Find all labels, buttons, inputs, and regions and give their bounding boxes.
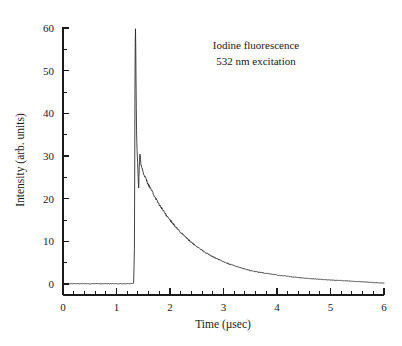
annotation-line-2: 532 nm excitation bbox=[216, 55, 296, 67]
x-axis-title: Time (µsec) bbox=[195, 318, 251, 331]
y-axis-title: Intensity (arb. units) bbox=[14, 113, 27, 207]
y-tick-label: 40 bbox=[43, 107, 55, 119]
y-tick-label: 30 bbox=[43, 150, 55, 162]
x-tick-label: 2 bbox=[167, 301, 173, 313]
x-tick-label: 4 bbox=[274, 301, 280, 313]
annotation-line-1: Iodine fluorescence bbox=[213, 39, 300, 51]
x-tick-label: 1 bbox=[114, 301, 120, 313]
y-tick-label: 0 bbox=[49, 278, 55, 290]
fluorescence-decay-curve bbox=[63, 29, 384, 284]
y-tick-label: 20 bbox=[43, 193, 55, 205]
x-tick-label: 6 bbox=[381, 301, 387, 313]
x-tick-label: 5 bbox=[328, 301, 334, 313]
y-tick-labels: 0102030405060 bbox=[43, 22, 55, 290]
iodine-fluorescence-chart: 0123456 0102030405060 Time (µsec) Intens… bbox=[0, 0, 402, 346]
x-tick-label: 0 bbox=[60, 301, 66, 313]
x-tick-labels: 0123456 bbox=[60, 301, 387, 313]
x-tick-label: 3 bbox=[221, 301, 227, 313]
y-tick-label: 60 bbox=[43, 22, 55, 34]
chart-figure: 0123456 0102030405060 Time (µsec) Intens… bbox=[0, 0, 402, 346]
y-tick-label: 50 bbox=[43, 65, 55, 77]
y-tick-label: 10 bbox=[43, 235, 55, 247]
axis-ticks bbox=[63, 28, 384, 295]
